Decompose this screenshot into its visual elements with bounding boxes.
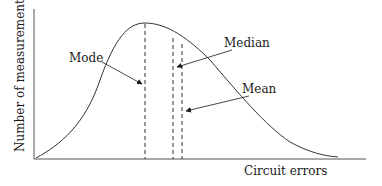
mean-label: Mean bbox=[242, 82, 277, 96]
median-arrow bbox=[177, 50, 232, 67]
distribution-curve bbox=[36, 23, 338, 158]
mean-arrow bbox=[186, 96, 249, 111]
y-axis-label: Number of measurements bbox=[13, 0, 27, 152]
median-label: Median bbox=[224, 36, 270, 50]
skewed-distribution-diagram: Mode Median Mean Circuit errors Number o… bbox=[0, 0, 382, 186]
x-axis-label: Circuit errors bbox=[244, 164, 327, 178]
mode-label: Mode bbox=[69, 51, 103, 65]
mode-arrow bbox=[102, 62, 142, 84]
